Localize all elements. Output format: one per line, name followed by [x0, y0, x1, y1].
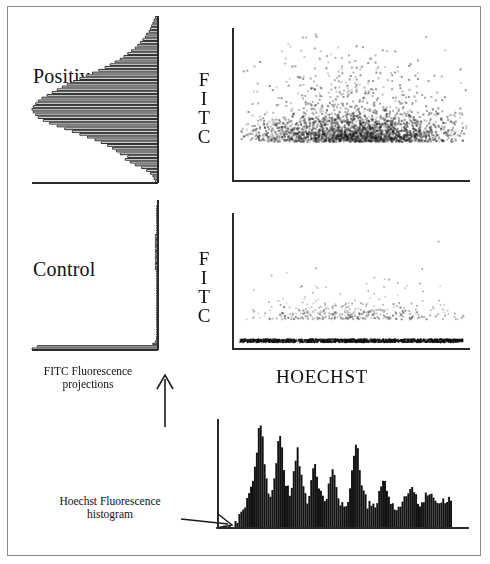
positive-scatter-plot — [235, 30, 468, 180]
control-projection-y-axis — [157, 200, 159, 350]
hoechst-histogram-caption-line2: histogram — [40, 508, 180, 521]
control-fitc-projection-histogram — [30, 205, 158, 350]
control-scatter-x-axis — [232, 348, 470, 350]
positive-projection-x-axis — [32, 182, 158, 184]
hoechst-histogram-y-axis — [217, 419, 219, 528]
hoechst-axis-label: HOECHST — [276, 366, 368, 388]
hoechst-histogram-caption: Hoechst Fluorescence histogram — [40, 495, 180, 521]
control-scatter-plot — [235, 215, 468, 348]
fitc-letter-c: C — [193, 127, 215, 146]
fitc-letter-t: T — [193, 287, 215, 306]
positive-scatter-x-axis — [232, 180, 470, 182]
positive-scatter-y-axis — [232, 28, 234, 181]
fitc-axis-label-control: F I T C — [193, 249, 215, 325]
positive-fitc-projection-histogram — [30, 16, 158, 183]
fitc-letter-i: I — [193, 268, 215, 287]
control-projection-x-axis — [32, 349, 158, 351]
hoechst-fluorescence-histogram — [219, 421, 452, 527]
fitc-projections-caption-line2: projections — [28, 378, 148, 391]
positive-projection-y-axis — [157, 16, 159, 183]
fitc-letter-t: T — [193, 108, 215, 127]
fitc-letter-c: C — [193, 306, 215, 325]
fitc-letter-f: F — [193, 249, 215, 268]
control-scatter-y-axis — [232, 213, 234, 349]
flow-cytometry-figure: Positive F I T C Control F I T C HOECHST… — [0, 0, 490, 564]
hoechst-histogram-caption-line1: Hoechst Fluorescence — [40, 495, 180, 508]
fitc-projections-caption-line1: FITC Fluorescence — [28, 365, 148, 378]
fitc-letter-f: F — [193, 70, 215, 89]
fitc-axis-label-positive: F I T C — [193, 70, 215, 146]
fitc-letter-i: I — [193, 89, 215, 108]
fitc-projections-caption: FITC Fluorescence projections — [28, 365, 148, 391]
up-arrow-icon — [150, 370, 180, 428]
hoechst-histogram-x-axis — [217, 527, 469, 529]
